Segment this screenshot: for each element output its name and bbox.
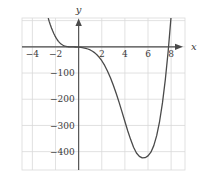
x-tick-label: 8 (168, 49, 174, 59)
y-axis-name: y (75, 4, 82, 15)
y-tick-label: −100 (50, 68, 75, 78)
chart-figure: −4−22468−100−200−300−400 xy (0, 0, 207, 182)
x-tick-label: 6 (145, 49, 151, 59)
y-tick-label: −300 (50, 121, 75, 131)
x-tick-label: −2 (49, 49, 62, 59)
chart-axis-names: xy (75, 4, 197, 52)
x-tick-label: −4 (26, 49, 40, 59)
y-tick-label: −400 (50, 147, 75, 157)
curve-path (48, 0, 173, 158)
chart-gridlines (22, 18, 185, 170)
chart-tick-labels: −4−22468−100−200−300−400 (26, 49, 174, 157)
chart-plot-area: −4−22468−100−200−300−400 xy (0, 0, 207, 182)
chart-series-curve (48, 0, 173, 158)
x-tick-label: 4 (122, 49, 128, 59)
chart-axes (22, 19, 183, 171)
y-tick-label: −200 (50, 94, 75, 104)
x-axis-name: x (191, 41, 197, 52)
